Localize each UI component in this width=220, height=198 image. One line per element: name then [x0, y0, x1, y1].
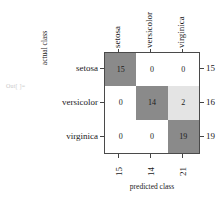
- notebook-out-prompt: Out[ ]=: [6, 83, 25, 89]
- matrix-cell: 0: [136, 120, 167, 153]
- row-label-versicolor: versicolor: [2, 97, 98, 107]
- matrix-cell: 0: [136, 53, 167, 86]
- row-total-versicolor: 16: [206, 97, 215, 107]
- confusion-matrix-grid: 15 0 0 0 14 2 0 0 19: [104, 52, 200, 154]
- column-total-setosa: 15: [114, 156, 124, 176]
- matrix-cell: 15: [105, 53, 136, 86]
- row-total-tick-mark: [200, 68, 204, 69]
- matrix-cell: 0: [105, 120, 136, 153]
- matrix-cell: 0: [105, 86, 136, 119]
- row-label-virginica: virginica: [2, 131, 98, 141]
- matrix-cell: 0: [168, 53, 199, 86]
- matrix-cell: 2: [168, 86, 199, 119]
- row-total-virginica: 19: [206, 131, 215, 141]
- column-header-versicolor: versicolor: [144, 0, 154, 48]
- matrix-cell: 14: [136, 86, 167, 119]
- column-total-versicolor: 14: [146, 156, 156, 176]
- column-header-setosa: setosa: [112, 0, 122, 48]
- x-axis-title: predicted class: [104, 182, 200, 192]
- confusion-matrix-figure: Out[ ]= actual class setosa versicolor v…: [0, 0, 220, 198]
- row-total-tick-mark: [200, 102, 204, 103]
- row-total-tick-mark: [200, 136, 204, 137]
- row-total-setosa: 15: [206, 63, 215, 73]
- column-total-virginica: 21: [178, 156, 188, 176]
- matrix-cell: 19: [168, 120, 199, 153]
- column-header-virginica: virginica: [176, 0, 186, 48]
- row-label-setosa: setosa: [2, 63, 98, 73]
